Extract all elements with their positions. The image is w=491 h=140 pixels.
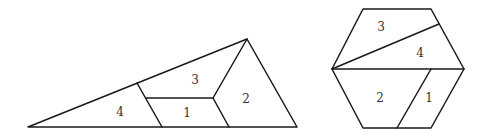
piece-label: 1	[425, 91, 433, 105]
hexagon-dissection: 3421	[332, 9, 464, 128]
cut-line	[137, 83, 162, 127]
triangle-dissection-outline	[28, 39, 297, 127]
cut-line	[213, 98, 229, 127]
dissection-diagram: 43123421	[0, 0, 491, 140]
piece-label: 4	[416, 46, 424, 60]
diagram-canvas: 43123421	[0, 0, 491, 140]
cut-line	[213, 39, 247, 98]
triangle-dissection: 4312	[28, 39, 297, 127]
piece-label: 3	[377, 20, 385, 34]
piece-label: 3	[191, 73, 199, 87]
piece-label: 4	[116, 105, 124, 119]
piece-label: 2	[242, 92, 250, 106]
piece-label: 2	[376, 91, 384, 105]
piece-label: 1	[183, 106, 191, 120]
